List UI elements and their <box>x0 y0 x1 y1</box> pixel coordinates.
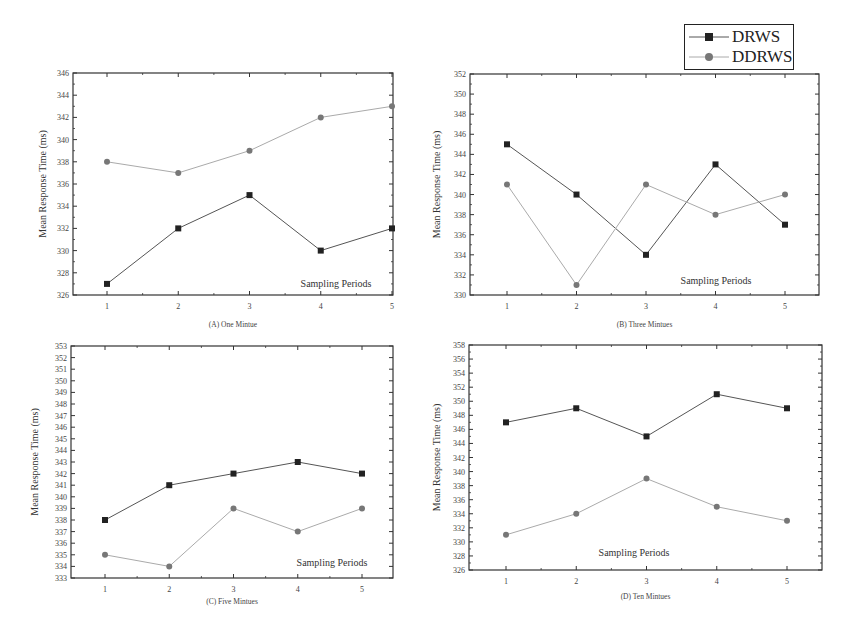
y-tick-label: 346 <box>57 69 69 78</box>
chart-panel-a: 32632833033233433633834034234434612345Me… <box>37 69 395 329</box>
x-tick-label: 5 <box>783 302 787 311</box>
y-axis-label: Mean Response Time (ms) <box>431 404 443 512</box>
circle-marker-icon <box>689 47 729 67</box>
y-tick-label: 350 <box>55 377 67 386</box>
y-tick-label: 344 <box>57 91 69 100</box>
square-marker-icon <box>295 459 301 465</box>
circle-marker-icon <box>389 103 395 109</box>
y-tick-label: 337 <box>55 528 67 537</box>
y-tick-label: 338 <box>55 516 67 525</box>
x-tick-label: 4 <box>714 302 718 311</box>
square-marker-icon <box>102 517 108 523</box>
x-axis-label: Sampling Periods <box>599 547 670 558</box>
y-tick-label: 330 <box>454 291 466 300</box>
chart-panel-d: 3263283303323343363383403423443463483503… <box>431 341 822 601</box>
y-tick-label: 328 <box>453 552 465 561</box>
square-marker-icon <box>574 192 580 198</box>
y-tick-label: 330 <box>57 247 69 256</box>
square-marker-icon <box>359 471 365 477</box>
y-tick-label: 326 <box>453 566 465 575</box>
square-marker-icon <box>643 252 649 258</box>
x-tick-label: 5 <box>785 577 789 586</box>
square-marker-icon <box>784 405 790 411</box>
square-marker-icon <box>503 419 509 425</box>
y-tick-label: 343 <box>55 458 67 467</box>
x-tick-label: 1 <box>505 302 509 311</box>
y-tick-label: 336 <box>55 539 67 548</box>
y-tick-label: 336 <box>453 496 465 505</box>
x-tick-label: 5 <box>360 585 364 594</box>
circle-marker-icon <box>295 529 301 535</box>
y-tick-label: 356 <box>453 355 465 364</box>
panel-caption: (B) Three Mintues <box>617 320 673 329</box>
legend-label-ddrws: DDRWS <box>732 47 792 67</box>
x-tick-label: 3 <box>248 302 252 311</box>
y-tick-label: 340 <box>57 136 69 145</box>
y-tick-label: 347 <box>55 412 67 421</box>
circle-marker-icon <box>102 552 108 558</box>
y-tick-label: 346 <box>453 425 465 434</box>
square-marker-icon <box>389 225 395 231</box>
chart-legend: DRWS DDRWS <box>684 24 794 70</box>
chart-panel-b: 3303323343363383403423443463483503521234… <box>431 70 819 329</box>
circle-marker-icon <box>175 170 181 176</box>
y-tick-label: 341 <box>55 481 67 490</box>
circle-marker-icon <box>104 159 110 165</box>
square-marker-icon <box>504 141 510 147</box>
circle-marker-icon <box>359 505 365 511</box>
circle-marker-icon <box>166 563 172 569</box>
y-tick-label: 352 <box>55 354 67 363</box>
y-tick-label: 338 <box>454 211 466 220</box>
circle-marker-icon <box>503 532 509 538</box>
x-axis-label: Sampling Periods <box>681 275 752 286</box>
legend-label-drws: DRWS <box>732 27 780 47</box>
circle-marker-icon <box>713 212 719 218</box>
y-tick-label: 326 <box>57 291 69 300</box>
y-tick-label: 340 <box>453 468 465 477</box>
y-tick-label: 344 <box>453 439 465 448</box>
y-tick-label: 334 <box>453 510 465 519</box>
circle-marker-icon <box>504 182 510 188</box>
square-marker-icon <box>318 248 324 254</box>
circle-marker-icon <box>318 114 324 120</box>
circle-marker-icon <box>782 192 788 198</box>
y-tick-label: 340 <box>55 493 67 502</box>
x-tick-label: 2 <box>575 302 579 311</box>
panel-caption: (A) One Mintue <box>209 320 258 329</box>
square-marker-icon <box>689 27 729 47</box>
series-line-drws <box>107 195 392 284</box>
y-tick-label: 338 <box>57 158 69 167</box>
circle-marker-icon <box>643 182 649 188</box>
y-tick-label: 349 <box>55 388 67 397</box>
square-marker-icon <box>175 225 181 231</box>
y-tick-label: 332 <box>454 271 466 280</box>
circle-marker-icon <box>714 504 720 510</box>
y-axis-label: Mean Response Time (ms) <box>37 130 49 238</box>
y-tick-label: 345 <box>55 435 67 444</box>
square-marker-icon <box>104 281 110 287</box>
panel-caption: (D) Ten Mintues <box>621 592 671 601</box>
y-tick-label: 342 <box>55 470 67 479</box>
y-tick-label: 346 <box>55 423 67 432</box>
plot-frame <box>469 345 822 570</box>
circle-marker-icon <box>247 148 253 154</box>
y-tick-label: 348 <box>453 411 465 420</box>
y-tick-label: 346 <box>454 130 466 139</box>
square-marker-icon <box>713 161 719 167</box>
panel-caption: (C) Five Mintues <box>206 597 258 606</box>
plot-frame <box>73 73 393 295</box>
x-tick-label: 3 <box>644 302 648 311</box>
y-tick-label: 353 <box>55 342 67 351</box>
x-tick-label: 4 <box>715 577 719 586</box>
x-tick-label: 2 <box>176 302 180 311</box>
y-tick-label: 334 <box>454 251 466 260</box>
y-tick-label: 336 <box>454 231 466 240</box>
x-tick-label: 1 <box>504 577 508 586</box>
square-marker-icon <box>782 222 788 228</box>
y-tick-label: 332 <box>453 524 465 533</box>
y-tick-label: 342 <box>57 113 69 122</box>
y-tick-label: 348 <box>454 110 466 119</box>
square-marker-icon <box>573 405 579 411</box>
x-tick-label: 4 <box>296 585 300 594</box>
chart-panel-c: 3333343353363373383393403413423433443453… <box>29 342 393 606</box>
